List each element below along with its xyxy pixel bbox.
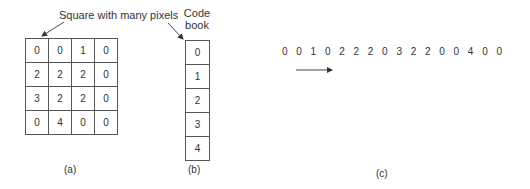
stream-value: 0: [482, 46, 496, 57]
stream-value: 2: [353, 46, 367, 57]
caption-b: (b): [188, 164, 200, 175]
grid-cell: 2: [72, 63, 95, 87]
caption-c: (c): [376, 168, 388, 179]
stream-value: 0: [454, 46, 468, 57]
codebook-entry: 2: [186, 89, 209, 113]
stream-value: 0: [382, 46, 396, 57]
caption-a: (a): [64, 164, 76, 175]
codebook-title-line1: Code: [183, 7, 211, 19]
stream-value: 1: [311, 46, 325, 57]
grid-cell: 0: [49, 39, 72, 63]
codebook-column: 0 1 2 3 4: [185, 40, 210, 161]
grid-cell: 0: [95, 87, 118, 111]
codebook-entry: 3: [186, 113, 209, 137]
grid-cell: 0: [26, 111, 49, 135]
grid-cell: 3: [26, 87, 49, 111]
stream-value: 2: [411, 46, 425, 57]
grid-cell: 2: [49, 87, 72, 111]
stream-value: 2: [425, 46, 439, 57]
stream-value: 0: [439, 46, 453, 57]
grid-cell: 0: [95, 39, 118, 63]
grid-cell: 2: [72, 87, 95, 111]
stream-value: 0: [296, 46, 310, 57]
grid-cell: 2: [49, 63, 72, 87]
arrow-to-grid: [42, 22, 64, 36]
grid-cell: 0: [95, 63, 118, 87]
stream-value: 0: [496, 46, 510, 57]
grid-cell: 0: [26, 39, 49, 63]
grid-cell: 1: [72, 39, 95, 63]
stream-value: 2: [368, 46, 382, 57]
grid-cell: 0: [95, 111, 118, 135]
codebook-entry: 1: [186, 65, 209, 89]
codebook-title-line2: book: [183, 19, 211, 31]
grid-cell: 2: [26, 63, 49, 87]
stream-value: 3: [396, 46, 410, 57]
grid-cell: 4: [49, 111, 72, 135]
grid-cell: 0: [72, 111, 95, 135]
codebook-entry: 4: [186, 137, 209, 161]
arrow-to-codebook: [168, 23, 183, 39]
stream-value: 4: [468, 46, 482, 57]
square-annotation-label: Square with many pixels: [59, 9, 178, 21]
pixel-stream: 0 0 1 0 2 2 2 0 3 2 2 0 0 4 0 0: [282, 46, 511, 57]
pixel-grid: 0 0 1 0 2 2 2 0 3 2 2 0 0 4 0 0: [25, 38, 118, 135]
stream-value: 0: [325, 46, 339, 57]
stream-value: 2: [339, 46, 353, 57]
codebook-entry: 0: [186, 41, 209, 65]
codebook-title: Code book: [183, 7, 211, 31]
stream-value: 0: [282, 46, 296, 57]
